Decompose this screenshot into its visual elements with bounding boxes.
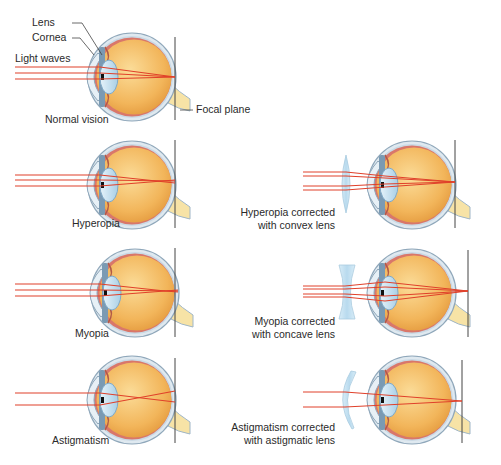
panel-myopia: Myopia [15,248,193,339]
caption-astigmatism: Astigmatism [52,434,109,446]
caption-hyperopia: Hyperopia [72,217,120,229]
caption-hyperopia-corrected-line1: Hyperopia corrected [240,206,335,218]
astigmatic-lens [343,371,356,429]
caption-myopia-corrected-line1: Myopia corrected [254,315,335,327]
caption-astigmatism-corrected-line2: with astigmatic lens [243,434,335,446]
caption-myopia: Myopia [75,327,109,339]
panel-astigmatism-corrected: Astigmatism corrected with astigmatic le… [231,356,470,446]
panel-hyperopia-corrected: Hyperopia corrected with convex lens [240,140,470,231]
caption-myopia-corrected-line2: with concave lens [251,328,335,340]
label-focal-plane: Focal plane [196,103,250,115]
panel-normal-vision: Lens Cornea Light waves Focal plane Norm… [15,16,250,125]
eye-diagram: Lens Cornea Light waves Focal plane Norm… [0,0,501,465]
concave-lens [339,265,355,319]
caption-hyperopia-corrected-line2: with convex lens [257,219,335,231]
panel-astigmatism: Astigmatism [15,356,190,446]
label-light-waves: Light waves [15,52,70,64]
label-cornea: Cornea [32,31,67,43]
panel-hyperopia: Hyperopia [15,140,190,229]
panel-myopia-corrected: Myopia corrected with concave lens [251,249,470,340]
convex-lens [342,155,350,213]
label-lens: Lens [32,16,55,28]
caption-astigmatism-corrected-line1: Astigmatism corrected [231,421,335,433]
caption-normal-vision: Normal vision [45,113,109,125]
